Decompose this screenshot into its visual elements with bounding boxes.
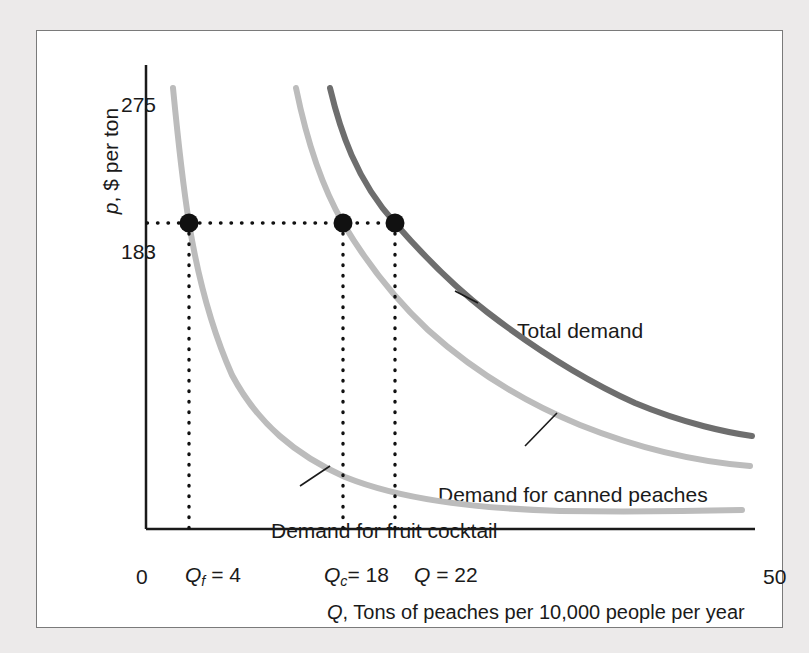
x-tick-50: 50 bbox=[763, 565, 786, 589]
x-axis-title: Q, Tons of peaches per 10,000 people per… bbox=[327, 601, 745, 624]
x-tick-qf: Qf = 4 bbox=[185, 563, 241, 589]
x-tick-qc: Qc= 18 bbox=[324, 563, 389, 589]
figure-panel: p, $ per ton 275 183 0 Qf = 4 Qc= 18 Q =… bbox=[36, 30, 783, 628]
qc-symbol: Q bbox=[324, 563, 340, 586]
qf-subscript: f bbox=[201, 573, 205, 589]
y-axis-title-rest: , $ per ton bbox=[99, 108, 122, 203]
qf-symbol: Q bbox=[185, 563, 201, 586]
curve-label-fruit-cocktail: Demand for fruit cocktail bbox=[271, 519, 497, 543]
qc-value: = 18 bbox=[347, 563, 388, 586]
x-axis-title-rest: , Tons of peaches per 10,000 people per … bbox=[343, 601, 745, 623]
curve-label-canned-peaches: Demand for canned peaches bbox=[438, 483, 708, 507]
x-tick-0: 0 bbox=[136, 565, 148, 589]
y-axis-symbol: p bbox=[99, 202, 122, 214]
curve-label-total-demand: Total demand bbox=[517, 319, 643, 343]
y-tick-275: 275 bbox=[121, 93, 156, 117]
q-symbol: Q bbox=[414, 563, 430, 586]
y-tick-183: 183 bbox=[121, 240, 156, 264]
y-axis-title: p, $ per ton bbox=[99, 81, 123, 241]
qf-value: = 4 bbox=[211, 563, 241, 586]
x-axis-symbol: Q bbox=[327, 601, 343, 623]
q-value: = 22 bbox=[436, 563, 477, 586]
x-tick-q: Q = 22 bbox=[414, 563, 478, 587]
